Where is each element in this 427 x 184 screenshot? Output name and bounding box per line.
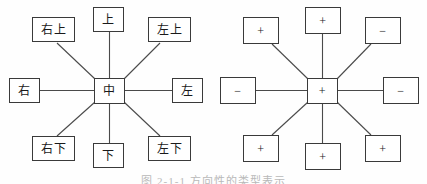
node-label: + (319, 85, 326, 97)
node-label: 中 (103, 85, 116, 97)
node-label: 上 (102, 14, 115, 26)
node-top-right-directions[interactable]: 左上 (148, 17, 191, 42)
node-bottom-right-directions[interactable]: 左下 (148, 136, 191, 161)
figure-caption: 图 2-1-1 方向性的类型表示 (0, 172, 427, 184)
node-top-center-directions[interactable]: 上 (93, 7, 124, 32)
node-label: 右 (18, 85, 31, 97)
node-middle-right-directions[interactable]: 左 (172, 78, 203, 103)
node-label: 右下 (41, 143, 66, 155)
node-middle-left-signs[interactable]: − (220, 77, 256, 104)
node-label: 下 (102, 150, 115, 162)
node-label: 左 (181, 85, 194, 97)
node-label: 左上 (157, 24, 182, 36)
node-top-left-directions[interactable]: 右上 (32, 17, 75, 42)
node-center-directions[interactable]: 中 (94, 78, 125, 104)
node-label: + (379, 143, 386, 155)
node-label: + (319, 151, 326, 163)
node-top-right-signs[interactable]: − (365, 17, 401, 44)
node-middle-left-directions[interactable]: 右 (9, 78, 40, 103)
node-center-signs[interactable]: + (307, 78, 338, 104)
node-bottom-center-directions[interactable]: 下 (93, 143, 124, 168)
node-top-center-signs[interactable]: + (305, 7, 341, 34)
node-label: + (257, 143, 264, 155)
node-bottom-left-signs[interactable]: + (243, 135, 279, 162)
node-label: − (379, 25, 386, 37)
diagram-directions: 右上 上 左上 右 中 左 右下 下 左下 (0, 0, 213, 170)
figure-canvas: 右上 上 左上 右 中 左 右下 下 左下 (0, 0, 427, 184)
node-label: − (397, 85, 404, 97)
node-label: 右上 (41, 24, 66, 36)
node-label: − (234, 85, 241, 97)
node-label: 左下 (157, 143, 182, 155)
node-bottom-right-signs[interactable]: + (365, 135, 401, 162)
node-bottom-left-directions[interactable]: 右下 (32, 136, 75, 161)
node-label: + (257, 25, 264, 37)
node-middle-right-signs[interactable]: − (383, 77, 419, 104)
diagram-signs: + + − − + − + + + (213, 0, 426, 170)
node-label: + (319, 15, 326, 27)
node-bottom-center-signs[interactable]: + (305, 143, 341, 170)
node-top-left-signs[interactable]: + (243, 17, 279, 44)
